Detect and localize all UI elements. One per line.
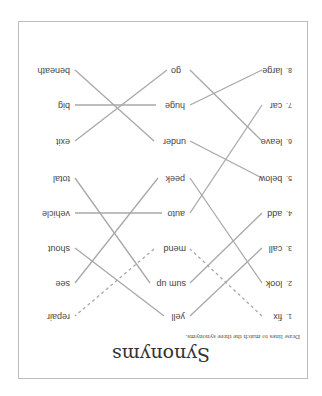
word-item[interactable]: total <box>53 174 70 184</box>
word-item[interactable]: 1.fix <box>273 311 292 322</box>
line-mend-repair <box>75 249 154 316</box>
line-sumup-total <box>75 178 150 283</box>
word-item[interactable]: peek <box>165 174 185 184</box>
line-yell-shout <box>75 248 164 316</box>
line-large-huge <box>190 70 262 105</box>
word-item[interactable]: 8.large <box>262 65 292 76</box>
word-item[interactable]: beneath <box>37 66 70 76</box>
word-item[interactable]: 5.below <box>259 173 292 184</box>
word-item[interactable]: vehicle <box>42 209 70 219</box>
word-item[interactable]: 3.call <box>269 243 292 254</box>
word-item[interactable]: big <box>58 101 70 111</box>
word-item[interactable]: sum up <box>156 279 186 289</box>
line-add-sumup <box>190 213 262 283</box>
word-item[interactable]: mend <box>163 244 186 254</box>
word-item[interactable]: shout <box>48 244 70 254</box>
word-item[interactable]: go <box>171 66 181 76</box>
word-item[interactable]: 4.add <box>267 208 292 219</box>
line-car-auto <box>190 105 262 213</box>
word-item[interactable]: auto <box>167 209 185 219</box>
worksheet-page: Synonyms Draw lines to match the three s… <box>0 0 322 396</box>
connection-lines <box>0 0 322 396</box>
word-item[interactable]: 2.look <box>266 278 292 289</box>
word-item[interactable]: repair <box>47 312 70 322</box>
word-item[interactable]: huge <box>165 101 185 111</box>
word-item[interactable]: exit <box>56 137 70 147</box>
word-item[interactable]: under <box>163 137 186 147</box>
word-item[interactable]: 7.car <box>270 100 292 111</box>
line-leave-go <box>190 70 262 141</box>
line-peek-see <box>75 178 158 283</box>
word-item[interactable]: yell <box>171 312 185 322</box>
line-look-peek <box>190 178 262 283</box>
word-item[interactable]: 6.leave <box>261 136 292 147</box>
word-item[interactable]: see <box>55 279 70 289</box>
